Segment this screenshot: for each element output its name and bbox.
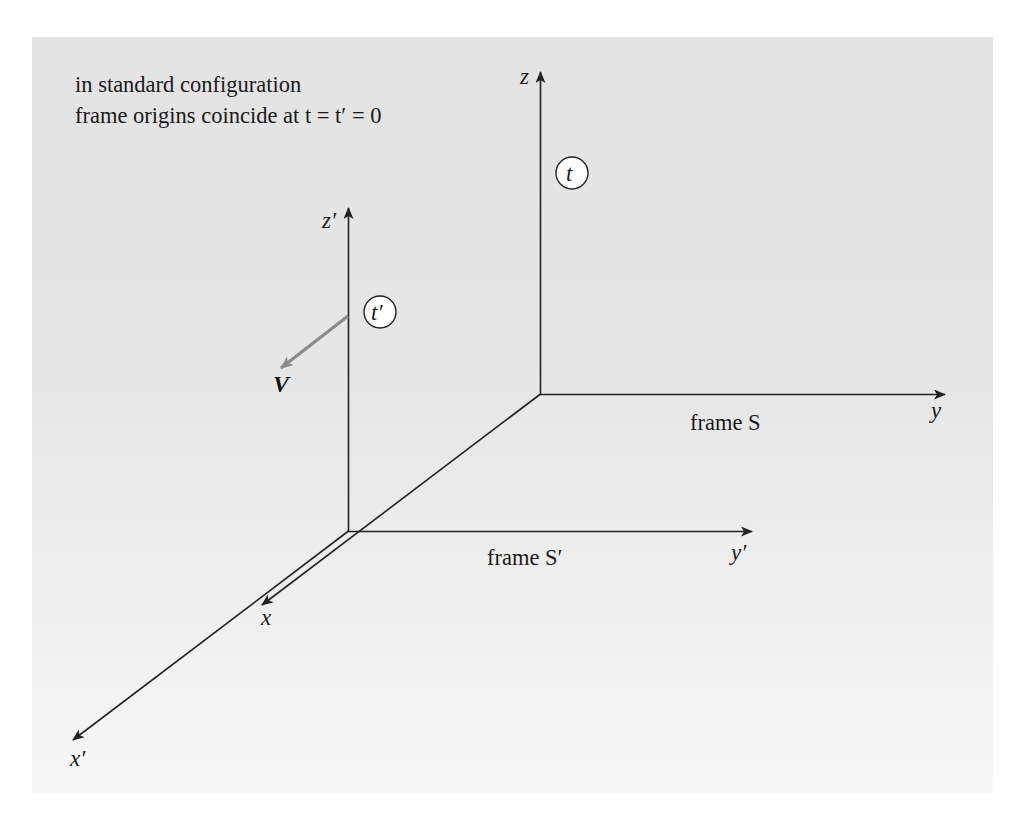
frame-s-clock-label: t bbox=[566, 161, 573, 186]
frame-s-x-axis bbox=[262, 394, 541, 605]
velocity-arrow bbox=[281, 316, 348, 368]
caption-line-2: frame origins coincide at t = t′ = 0 bbox=[75, 103, 381, 128]
frame-s-z-label: z bbox=[519, 64, 529, 89]
frame-s-prime-x-axis bbox=[73, 531, 349, 740]
frame-s-prime-x-label: x′ bbox=[69, 746, 86, 771]
velocity-label: V bbox=[273, 371, 291, 397]
frame-s-prime-axes bbox=[73, 208, 752, 740]
frame-s-axes bbox=[262, 72, 945, 605]
frame-s-prime-clock-label: t′ bbox=[371, 300, 383, 325]
frame-s-x-label: x bbox=[260, 605, 272, 630]
reference-frames-diagram: in standard configuration frame origins … bbox=[0, 0, 1018, 816]
caption-line-1: in standard configuration bbox=[75, 72, 301, 97]
frame-s-prime-label: frame S′ bbox=[487, 545, 563, 570]
frame-s-prime-clock: t′ bbox=[364, 296, 396, 328]
frame-s-y-label: y bbox=[929, 398, 942, 423]
frame-s-prime-z-label: z′ bbox=[321, 208, 337, 233]
frame-s-label: frame S bbox=[690, 410, 761, 435]
frame-s-prime-y-label: y′ bbox=[729, 540, 747, 565]
frame-s-clock: t bbox=[556, 157, 588, 189]
